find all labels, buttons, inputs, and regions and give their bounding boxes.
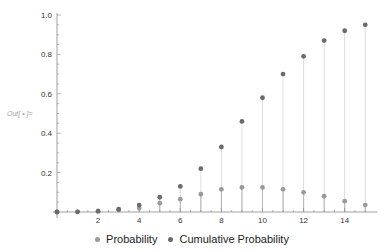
cumulative-point <box>96 209 101 214</box>
y-tick-label: 0.2 <box>41 169 53 178</box>
x-tick-label: 12 <box>299 216 308 225</box>
probability-point <box>260 185 265 190</box>
y-tick-label: 0.8 <box>41 50 53 59</box>
probability-point <box>240 185 245 190</box>
cumulative-point <box>342 28 347 33</box>
x-tick-label: 4 <box>137 216 142 225</box>
cumulative-point <box>75 209 80 214</box>
cumulative-marker-icon <box>168 237 173 242</box>
x-tick-label: 2 <box>96 216 101 225</box>
cumulative-point <box>157 195 162 200</box>
cumulative-point <box>137 203 142 208</box>
x-tick-label: 8 <box>219 216 224 225</box>
cumulative-point <box>260 95 265 100</box>
stem-plot: 0.20.40.60.81.02468101214 <box>0 0 384 232</box>
legend: Probability Cumulative Probability <box>0 233 384 245</box>
probability-point <box>281 187 286 192</box>
probability-point <box>198 192 203 197</box>
cumulative-point <box>281 72 286 77</box>
probability-point <box>219 187 224 192</box>
cumulative-point <box>363 22 368 27</box>
legend-item-probability: Probability <box>95 233 157 245</box>
cumulative-point <box>116 207 121 212</box>
probability-point <box>157 201 162 206</box>
probability-point <box>363 203 368 208</box>
y-tick-label: 0.6 <box>41 90 53 99</box>
y-tick-label: 1.0 <box>41 11 53 20</box>
legend-item-cumulative-probability: Cumulative Probability <box>168 233 288 245</box>
cumulative-point <box>219 145 224 150</box>
cumulative-point <box>178 184 183 189</box>
probability-point <box>342 199 347 204</box>
cumulative-point <box>301 54 306 59</box>
x-tick-label: 6 <box>178 216 183 225</box>
cumulative-point <box>322 38 327 43</box>
probability-point <box>301 190 306 195</box>
y-tick-label: 0.4 <box>41 129 53 138</box>
probability-point <box>178 197 183 202</box>
x-tick-label: 10 <box>258 216 267 225</box>
probability-marker-icon <box>95 237 100 242</box>
cumulative-point <box>55 210 60 215</box>
x-tick-label: 14 <box>340 216 349 225</box>
cumulative-point <box>240 119 245 124</box>
cumulative-point <box>198 166 203 171</box>
probability-point <box>322 194 327 199</box>
